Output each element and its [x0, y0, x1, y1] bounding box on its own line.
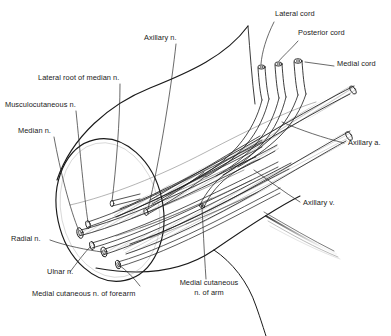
anatomy-figure: Lateral cord Posterior cord Medial cord … — [0, 0, 391, 336]
label-medial-cutaneous-nerve-of-forearm: Medial cutaneous n. of forearm — [32, 289, 135, 298]
label-median-nerve: Median n. — [18, 126, 51, 135]
fascial-sheet — [264, 212, 340, 259]
label-ulnar-nerve: Ulnar n. — [47, 267, 73, 276]
label-medial-cutaneous-arm-line1: Medial cutaneous — [180, 278, 239, 287]
label-lateral-cord: Lateral cord — [275, 9, 315, 18]
label-medial-cord: Medial cord — [337, 59, 376, 68]
posterior-cord — [275, 62, 286, 98]
label-posterior-cord: Posterior cord — [298, 28, 345, 37]
label-lateral-root-of-median-nerve: Lateral root of median n. — [38, 73, 119, 82]
label-axillary-vein: Axillary v. — [303, 198, 335, 207]
label-medial-cutaneous-arm-line2: n. of arm — [194, 288, 224, 297]
label-radial-nerve: Radial n. — [11, 234, 41, 243]
label-medial-cutaneous-nerve-of-arm: Medial cutaneous n. of arm — [165, 278, 253, 297]
label-musculocutaneous-nerve: Musculocutaneous n. — [5, 100, 76, 109]
lateral-cord — [258, 65, 269, 100]
label-axillary-artery: Axillary a. — [348, 138, 381, 147]
label-axillary-nerve: Axillary n. — [144, 33, 177, 42]
medial-cord — [294, 59, 306, 95]
